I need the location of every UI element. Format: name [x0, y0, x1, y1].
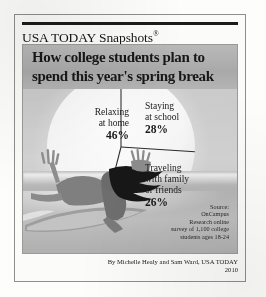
- source-note: Source: OnCampus Research online survey …: [135, 203, 229, 240]
- slice-value: 28%: [145, 123, 209, 136]
- registered-trademark-icon: ®: [153, 29, 159, 38]
- slice-label-line2: at school: [145, 112, 179, 122]
- source-line5: students ages 18-24: [180, 233, 229, 240]
- brand-name: USA TODAY Snapshots: [22, 30, 153, 45]
- top-rule: [22, 22, 238, 25]
- surfer-far-arm: [49, 162, 60, 183]
- source-line2: OnCampus: [201, 210, 229, 217]
- page-title: How college students plan to spend this …: [32, 48, 232, 85]
- slice-label-line2: at home: [99, 118, 129, 128]
- chart-panel: How college students plan to spend this …: [22, 44, 238, 254]
- credit-byline: By Michelle Healy and Sam Ward, USA TODA…: [108, 258, 238, 265]
- brand-title: USA TODAY Snapshots®: [22, 26, 238, 42]
- slice-label-relaxing-at-home: Relaxing at home 46%: [69, 107, 129, 142]
- slice-label-line1: Traveling: [145, 163, 182, 173]
- surfer-far-hand: [41, 149, 60, 165]
- surfer-near-arm: [31, 193, 63, 202]
- credit-year: 2010: [22, 266, 238, 274]
- slice-label-line1: Relaxing: [95, 107, 129, 117]
- credit-line: By Michelle Healy and Sam Ward, USA TODA…: [22, 258, 238, 274]
- headline-band: How college students plan to spend this …: [23, 45, 238, 89]
- source-line1: Source:: [210, 203, 229, 210]
- source-line4: survey of 1,100 college: [171, 225, 229, 232]
- scanned-page: USA TODAY Snapshots®: [0, 0, 266, 297]
- slice-value: 46%: [69, 129, 129, 142]
- slice-label-line1: Staying: [145, 101, 174, 111]
- source-line3: Research online: [189, 218, 229, 225]
- surfer-torso: [56, 176, 107, 206]
- slice-label-staying-at-school: Staying at school 28%: [145, 101, 209, 136]
- slice-label-line2: with family: [145, 174, 189, 184]
- slice-label-line3: or friends: [145, 185, 182, 195]
